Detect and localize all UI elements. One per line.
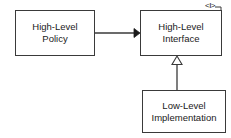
node-low-level-implementation[interactable]: Low-Level Implementation bbox=[142, 90, 226, 133]
node-low-level-implementation-line2: Implementation bbox=[152, 112, 217, 124]
node-low-level-implementation-line1: Low-Level bbox=[162, 100, 205, 112]
hollow-triangle-arrowhead-icon bbox=[172, 56, 182, 65]
node-high-level-policy-line2: Policy bbox=[42, 33, 67, 45]
node-high-level-interface-line2: Interface bbox=[163, 33, 200, 45]
node-high-level-policy-line1: High-Level bbox=[32, 21, 77, 33]
edge-implementation-realizes-interface bbox=[172, 56, 182, 90]
uml-diagram-canvas: High-Level Policy High-Level Interface <… bbox=[0, 0, 231, 138]
edge-policy-uses-interface bbox=[95, 29, 140, 38]
node-high-level-interface-line1: High-Level bbox=[158, 21, 203, 33]
node-high-level-interface[interactable]: High-Level Interface bbox=[140, 10, 222, 56]
interface-stereotype-icon: <I> bbox=[197, 0, 223, 12]
node-high-level-policy[interactable]: High-Level Policy bbox=[15, 10, 95, 56]
